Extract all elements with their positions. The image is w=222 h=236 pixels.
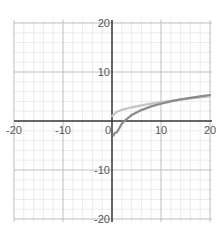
- x-tick-label: -20: [6, 124, 22, 136]
- y-tick-label: 20: [98, 17, 110, 29]
- y-tick-label: -10: [94, 164, 110, 176]
- x-tick-label: 0: [105, 124, 111, 136]
- graph: -20-10010202010-10-20: [0, 0, 222, 236]
- x-tick-label: -10: [55, 124, 71, 136]
- y-tick-label: 10: [98, 66, 110, 78]
- x-tick-label: 10: [155, 124, 167, 136]
- x-tick-label: 20: [204, 124, 216, 136]
- y-tick-label: -20: [94, 213, 110, 225]
